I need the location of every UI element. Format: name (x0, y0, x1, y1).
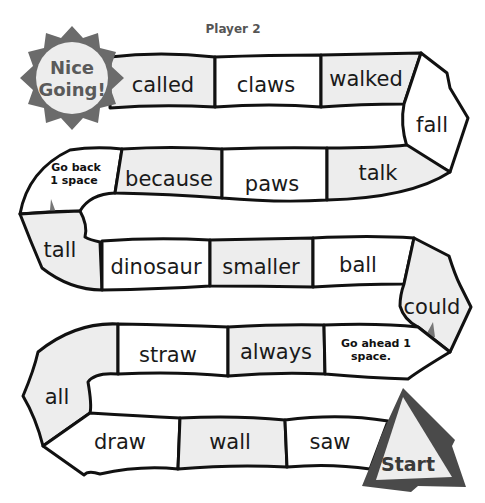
word-tall: tall (44, 238, 77, 262)
space-called[interactable]: called (110, 54, 215, 108)
word-all: all (45, 385, 70, 409)
word-always: always (240, 340, 312, 364)
space-smaller[interactable]: smaller (210, 238, 313, 287)
word-draw: draw (94, 430, 146, 454)
word-dinosaur: dinosaur (110, 255, 201, 279)
word-talk: talk (358, 161, 398, 185)
space-claws[interactable]: claws (215, 55, 321, 107)
word-claws: claws (237, 73, 295, 97)
space-dinosaur[interactable]: dinosaur (102, 239, 210, 290)
word-called: called (132, 73, 194, 97)
word-fall: fall (416, 113, 448, 137)
word-paws: paws (245, 172, 299, 196)
finish-label-line1: Nice (50, 57, 94, 78)
word-because: because (125, 167, 213, 191)
space-ball[interactable]: ball (313, 237, 414, 288)
space-because[interactable]: because (115, 148, 222, 199)
go-ahead-line2: space. (351, 350, 391, 363)
start-label: Start (381, 453, 435, 475)
space-tall[interactable]: tall (20, 211, 102, 290)
word-straw: straw (139, 343, 197, 367)
space-paws[interactable]: paws (222, 148, 327, 201)
sun-icon (20, 26, 124, 130)
go-back-line1: Go back (51, 161, 101, 174)
word-ball: ball (339, 253, 377, 277)
word-wall: wall (209, 430, 251, 454)
finish-label-line2: Going! (38, 79, 105, 100)
space-wall[interactable]: wall (178, 417, 287, 469)
go-ahead-line1: Go ahead 1 (341, 337, 411, 350)
space-always[interactable]: always (228, 325, 325, 376)
space-straw[interactable]: straw (118, 324, 228, 376)
word-could: could (404, 295, 461, 319)
player-title: Player 2 (205, 22, 260, 36)
word-walked: walked (329, 67, 403, 91)
finish-space[interactable]: Nice Going! (20, 26, 124, 130)
word-smaller: smaller (222, 255, 300, 279)
word-saw: saw (310, 430, 351, 454)
go-back-line2: 1 space (50, 174, 97, 187)
game-board: Player 2 called claws walked fall Go bac… (0, 0, 485, 503)
